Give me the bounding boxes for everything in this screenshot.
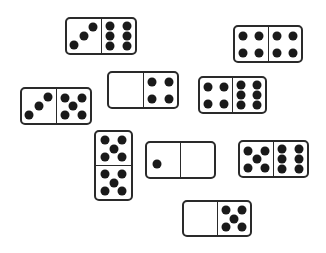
domino-half-4 [200, 78, 232, 112]
domino-3-5 [20, 87, 92, 125]
domino-3-6 [65, 17, 137, 55]
domino-half-4 [143, 73, 178, 107]
domino-4-4 [233, 25, 303, 63]
pip-dot [255, 48, 264, 57]
pip-dot [60, 93, 69, 102]
pip-dot [204, 99, 213, 108]
pip-dot [253, 91, 262, 100]
pip-dot [100, 152, 109, 161]
domino-4-6 [198, 76, 267, 114]
pip-dot [278, 155, 287, 164]
pip-dot [237, 222, 246, 231]
pip-dot [122, 21, 131, 30]
pip-dot [237, 101, 246, 110]
domino-half-5 [96, 132, 131, 165]
pip-dot [253, 80, 262, 89]
pip-dot [118, 136, 127, 145]
pip-dot [118, 170, 127, 179]
domino-half-0 [184, 202, 217, 235]
pip-dot [294, 155, 303, 164]
domino-half-6 [101, 19, 136, 53]
pip-dot [253, 101, 262, 110]
pip-dot [164, 77, 173, 86]
domino-half-5 [240, 142, 273, 176]
domino-5-6 [238, 140, 309, 178]
pip-dot [105, 21, 114, 30]
pip-dot [260, 146, 269, 155]
pip-dot [221, 222, 230, 231]
pip-dot [105, 32, 114, 41]
pip-dot [118, 186, 127, 195]
pip-dot [260, 163, 269, 172]
domino-0-5 [182, 200, 252, 237]
pip-dot [77, 93, 86, 102]
pip-dot [239, 31, 248, 40]
pip-dot [25, 110, 34, 119]
pip-dot [239, 48, 248, 57]
domino-5-5 [94, 130, 133, 201]
pip-dot [147, 94, 156, 103]
domino-half-0 [109, 73, 143, 107]
pip-dot [294, 144, 303, 153]
pip-dot [109, 144, 118, 153]
domino-half-4 [235, 27, 268, 61]
pip-dot [105, 42, 114, 51]
pip-dot [272, 31, 281, 40]
pip-dot [244, 163, 253, 172]
domino-half-4 [268, 27, 302, 61]
pip-dot [44, 93, 53, 102]
pip-dot [237, 80, 246, 89]
domino-half-3 [67, 19, 101, 53]
pip-dot [278, 165, 287, 174]
domino-half-6 [232, 78, 265, 112]
pip-dot [244, 146, 253, 155]
pip-dot [288, 31, 297, 40]
domino-1-0 [145, 141, 216, 179]
pip-dot [252, 155, 261, 164]
pip-dot [294, 165, 303, 174]
pip-dot [237, 206, 246, 215]
domino-half-1 [147, 143, 180, 177]
pip-dot [70, 40, 79, 49]
pip-dot [89, 23, 98, 32]
pip-dot [229, 214, 238, 223]
pip-dot [278, 144, 287, 153]
pip-dot [164, 94, 173, 103]
pip-dot [100, 136, 109, 145]
pip-dot [69, 102, 78, 111]
pip-dot [77, 110, 86, 119]
pip-dot [221, 206, 230, 215]
pip-dot [147, 77, 156, 86]
domino-half-6 [273, 142, 307, 176]
pip-dot [118, 152, 127, 161]
pip-dot [220, 82, 229, 91]
pip-dot [204, 82, 213, 91]
domino-half-5 [56, 89, 91, 123]
pip-dot [220, 99, 229, 108]
pip-dot [34, 102, 43, 111]
domino-half-5 [217, 202, 251, 235]
pip-dot [100, 186, 109, 195]
domino-half-0 [180, 143, 214, 177]
pip-dot [100, 170, 109, 179]
pip-dot [255, 31, 264, 40]
domino-half-5 [96, 165, 131, 199]
domino-half-3 [22, 89, 56, 123]
pip-dot [288, 48, 297, 57]
pip-dot [109, 178, 118, 187]
pip-dot [60, 110, 69, 119]
domino-0-4 [107, 71, 179, 109]
pip-dot [272, 48, 281, 57]
pip-dot [79, 32, 88, 41]
pip-dot [122, 32, 131, 41]
pip-dot [237, 91, 246, 100]
pip-dot [122, 42, 131, 51]
pip-dot [152, 160, 161, 169]
